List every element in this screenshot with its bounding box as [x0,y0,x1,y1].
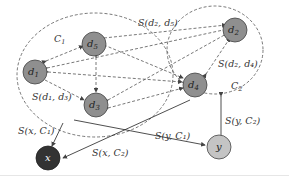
node-d2: d2 [223,18,247,42]
edge-label-y-c1: S(y, C₁) [155,130,190,141]
similarity-diagram: d1 d5 d3 d2 d4 x y C1 C2 S(d₂, d₅) S(d₂,… [0,0,289,178]
cluster-label-c2: C2 [231,80,242,93]
edge-label-d1-d3: S(d₁, d₃) [32,91,72,102]
cluster-c2 [167,6,263,94]
svg-text:x: x [45,152,51,163]
node-d4: d4 [183,73,207,97]
node-d3: d3 [84,93,108,117]
node-y: y [207,135,231,159]
dashed-edges [45,25,230,108]
edge-label-x-c2: S(x, C₂) [92,147,129,158]
edge-label-y-c2: S(y, C₂) [225,115,260,126]
cluster-label-c1: C1 [54,33,65,46]
node-d1: d1 [23,60,47,84]
node-d5: d5 [82,32,106,56]
edge-label-d2-d4: S(d₂, d₄) [218,58,258,69]
edge-label-x-c1: S(x, C₁) [18,125,55,136]
solid-edges [52,96,221,158]
svg-text:y: y [215,141,222,152]
node-x: x [36,146,60,170]
bottom-divider [0,175,289,176]
edge-label-d2-d5: S(d₂, d₅) [138,17,178,28]
